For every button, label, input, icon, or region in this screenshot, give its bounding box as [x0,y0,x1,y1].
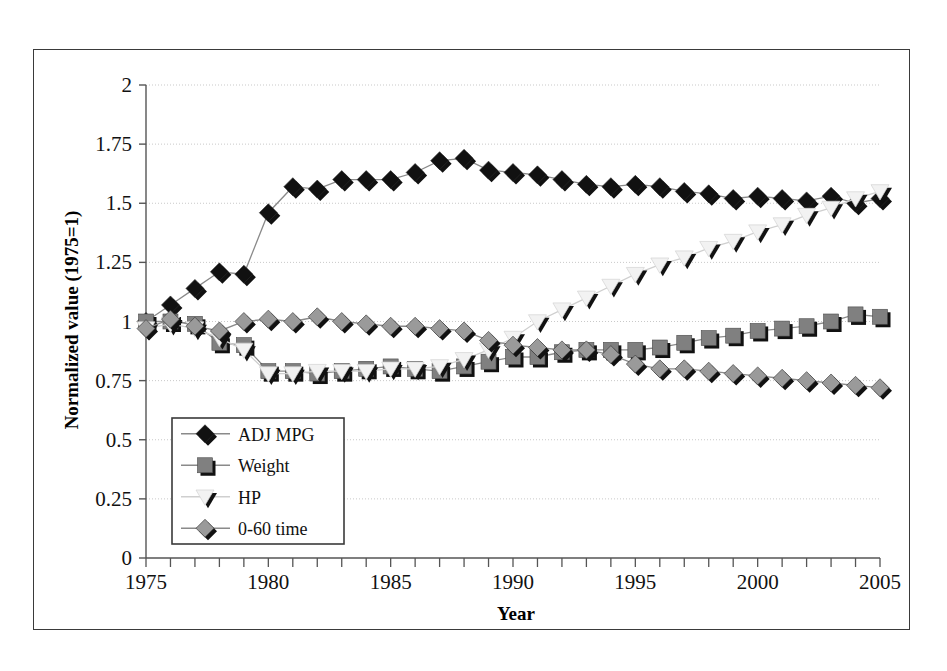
y-tick-label: 0.75 [95,369,132,393]
data-point-0-60-time [651,360,672,381]
data-point-adj-mpg [773,190,794,211]
y-tick-label: 0.25 [95,487,132,511]
data-point-weight [726,328,744,346]
data-point-weight [677,335,695,353]
data-point-weight [775,321,793,339]
y-tick-label: 1.5 [106,191,132,215]
data-point-adj-mpg [749,187,770,208]
x-tick-label: 1990 [492,570,534,594]
figure: 00.250.50.7511.251.51.752 19751980198519… [0,0,947,671]
data-point-adj-mpg [553,171,574,192]
data-point-0-60-time [455,322,476,343]
data-point-adj-mpg [284,178,305,199]
data-point-0-60-time [773,369,794,390]
data-point-adj-mpg [675,182,696,203]
x-tick-label: 2000 [737,570,779,594]
data-point-0-60-time [284,313,305,334]
data-point-adj-mpg [235,265,256,286]
data-point-0-60-time [847,376,868,397]
data-point-adj-mpg [333,171,354,192]
data-point-0-60-time [822,374,843,395]
x-tick-label: 2005 [859,570,901,594]
x-tick-label: 1980 [247,570,289,594]
y-axis-title: Normalized value (1975=1) [61,211,83,430]
data-point-0-60-time [431,320,452,341]
data-point-weight [873,309,891,327]
x-tick-label: 1975 [125,570,167,594]
x-tick-label: 1995 [614,570,656,594]
data-point-0-60-time [357,315,378,336]
data-point-adj-mpg [700,185,721,206]
data-point-adj-mpg [455,149,476,170]
data-point-0-60-time [749,367,770,388]
chart-canvas: 00.250.50.7511.251.51.752 19751980198519… [0,0,947,671]
chart-legend: ADJ MPGWeightHP0-60 time [172,418,344,544]
legend-label: 0-60 time [238,519,308,539]
data-point-weight [799,319,817,337]
data-point-0-60-time [406,317,427,338]
data-point-adj-mpg [626,175,647,196]
x-axis-tick-labels: 1975198019851990199520002005 [125,570,901,594]
data-point-adj-mpg [528,166,549,187]
y-tick-label: 2 [122,73,133,97]
legend-label: HP [238,488,261,508]
data-point-0-60-time [798,372,819,393]
data-point-adj-mpg [210,263,231,284]
data-point-adj-mpg [480,161,501,182]
data-point-adj-mpg [308,180,329,201]
data-point-0-60-time [333,313,354,334]
y-tick-label: 0.5 [106,428,132,452]
data-point-weight [652,340,670,358]
data-point-0-60-time [871,379,892,400]
data-series-layer [137,149,892,399]
y-tick-label: 1.25 [95,250,132,274]
data-point-adj-mpg [504,164,525,185]
data-point-adj-mpg [259,204,280,225]
y-tick-label: 1 [122,310,133,334]
data-point-weight [824,314,842,332]
data-point-0-60-time [308,308,329,329]
series-line [146,158,880,321]
data-point-adj-mpg [724,190,745,211]
y-tick-label: 1.75 [95,132,132,156]
data-point-adj-mpg [431,152,452,173]
data-point-adj-mpg [602,178,623,199]
data-point-0-60-time [235,313,256,334]
data-point-0-60-time [259,310,280,331]
y-axis-tick-labels: 00.250.50.7511.251.51.752 [95,73,132,570]
data-point-0-60-time [675,360,696,381]
legend-label: Weight [238,456,290,476]
data-point-adj-mpg [577,175,598,196]
y-tick-label: 0 [122,546,133,570]
data-point-weight [701,331,719,349]
data-point-adj-mpg [357,171,378,192]
legend-label: ADJ MPG [238,425,315,445]
data-point-adj-mpg [651,178,672,199]
data-point-0-60-time [382,317,403,338]
data-point-0-60-time [724,365,745,386]
data-point-weight [848,307,866,325]
data-point-adj-mpg [382,171,403,192]
x-axis-title: Year [497,603,536,624]
data-point-0-60-time [700,362,721,383]
series-adj-mpg [137,149,892,333]
x-tick-label: 1985 [370,570,412,594]
data-point-weight [750,323,768,341]
data-point-adj-mpg [406,164,427,185]
